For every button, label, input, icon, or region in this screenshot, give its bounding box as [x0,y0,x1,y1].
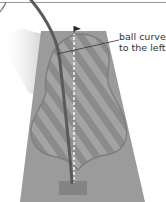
annotation-label: ball curves to the left [119,31,166,53]
annotation-line-1: ball curves [119,31,166,42]
trajectory-shadow-arc [0,2,6,12]
flag-icon [74,26,81,31]
golf-shot-diagram: ball curves to the left [0,0,166,202]
annotation-line-2: to the left [119,42,166,53]
